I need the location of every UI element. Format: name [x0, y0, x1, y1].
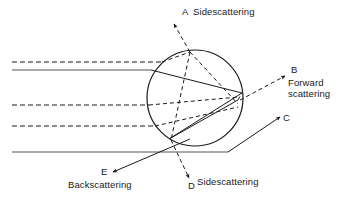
internal-ray-solid-upper — [151, 70, 242, 93]
label-d-letter: D — [188, 180, 195, 191]
label-e-letter: E — [101, 166, 107, 177]
internal-ray-dashed-diagonal — [190, 52, 238, 104]
exit-ray-a — [174, 24, 190, 52]
label-b-text-line1: Forward — [288, 77, 324, 89]
internal-ray-dashed-vertical — [171, 52, 190, 140]
label-b-letter: B — [291, 64, 297, 75]
exit-ray-b — [240, 76, 285, 100]
label-e-text: Backscattering — [68, 179, 132, 190]
label-d-text: Sidescattering — [197, 176, 259, 187]
label-c-letter: C — [283, 112, 290, 123]
label-a-text: Sidescattering — [193, 6, 255, 17]
label-b-text-line2: scattering — [288, 88, 330, 100]
scattering-diagram: A Sidescattering B Forward scattering C … — [0, 0, 345, 198]
label-a-letter: A — [182, 6, 188, 17]
